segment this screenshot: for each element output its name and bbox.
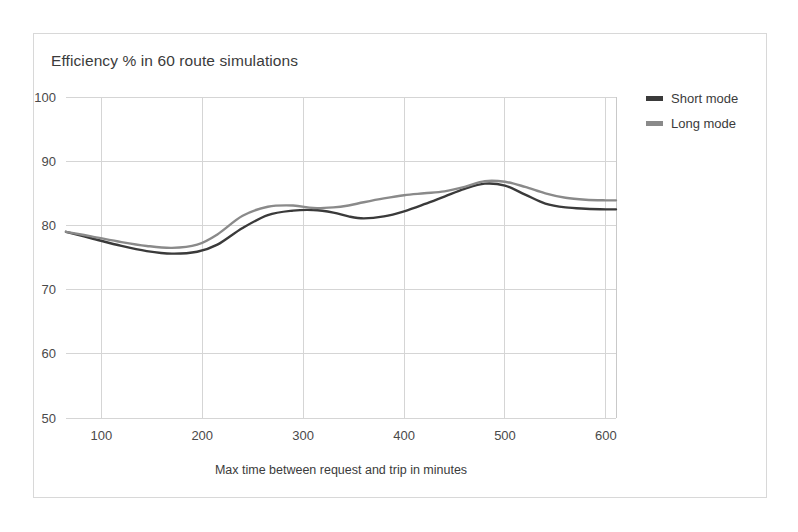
legend-entry-short-mode[interactable]: Short mode	[646, 91, 756, 106]
y-axis-tick-label: 100	[34, 90, 56, 105]
chart-figure-frame: Efficiency % in 60 route simulations 506…	[33, 33, 767, 498]
chart-legend: Short mode Long mode	[646, 91, 756, 141]
x-axis-tick-label: 500	[494, 428, 516, 443]
legend-entry-long-mode[interactable]: Long mode	[646, 116, 756, 131]
x-axis-title: Max time between request and trip in min…	[215, 463, 467, 477]
series-line-short-mode	[66, 183, 616, 253]
y-axis-tick-label: 90	[42, 154, 56, 169]
x-axis-tick-label: 100	[90, 428, 112, 443]
y-axis-tick-label: 80	[42, 218, 56, 233]
y-axis-tick-label: 50	[42, 411, 56, 426]
y-axis-tick-label: 70	[42, 282, 56, 297]
x-axis-tick-label: 300	[292, 428, 314, 443]
x-axis-tick-label: 200	[191, 428, 213, 443]
x-axis-tick-label: 600	[595, 428, 617, 443]
y-axis-tick-label: 60	[42, 346, 56, 361]
legend-label-short-mode: Short mode	[671, 91, 738, 106]
legend-swatch-short-mode	[646, 96, 663, 101]
x-axis-tick-label: 400	[393, 428, 415, 443]
legend-label-long-mode: Long mode	[671, 116, 736, 131]
legend-swatch-long-mode	[646, 121, 663, 126]
